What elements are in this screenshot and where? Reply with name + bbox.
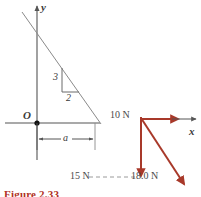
slope-rise-label: 3 (53, 72, 58, 82)
x-axis-label: x (189, 126, 195, 137)
force-label-10n: 10 N (110, 110, 130, 120)
origin-label: O (23, 110, 31, 121)
y-axis-label: y (41, 2, 46, 13)
dimension-label-a: a (63, 133, 68, 143)
slope-run-label: 2 (66, 93, 71, 103)
figure-vector-graphics (0, 0, 201, 197)
force-label-15n: 15 N (70, 171, 90, 181)
force-label-18n: 18.0 N (131, 171, 158, 181)
coordinate-axes (5, 6, 100, 160)
figure-caption: Figure 2.33 (4, 189, 59, 197)
physics-force-figure: y x O 3 2 a 10 N 15 N 18.0 N Figure 2.33 (0, 0, 201, 197)
